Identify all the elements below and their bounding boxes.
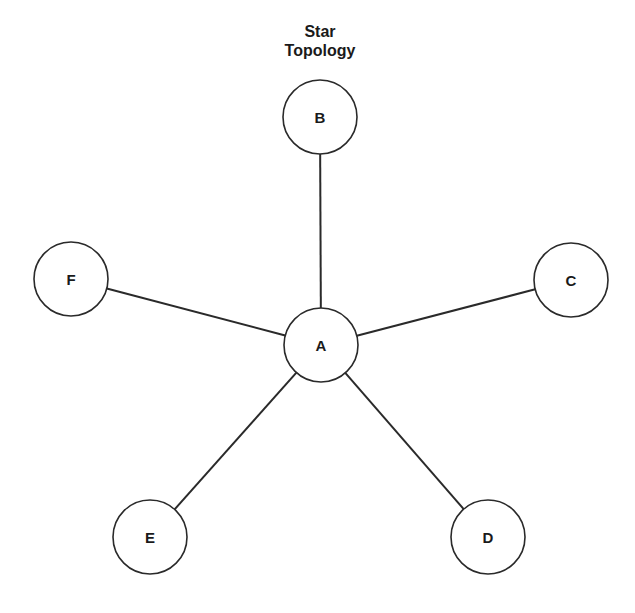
node-label: C xyxy=(566,272,577,289)
node-c: C xyxy=(534,243,608,317)
node-a: A xyxy=(284,308,358,382)
star-topology-diagram: ABCDEF xyxy=(0,0,635,613)
node-label: B xyxy=(315,109,326,126)
edge-a-d xyxy=(345,373,463,509)
node-d: D xyxy=(451,500,525,574)
node-e: E xyxy=(113,500,187,574)
nodes-layer: ABCDEF xyxy=(34,80,608,574)
node-b: B xyxy=(283,80,357,154)
edge-a-f xyxy=(107,288,285,335)
edge-a-b xyxy=(320,154,321,308)
node-label: D xyxy=(483,529,494,546)
node-label: E xyxy=(145,529,155,546)
node-label: F xyxy=(66,271,75,288)
node-label: A xyxy=(316,337,327,354)
node-f: F xyxy=(34,242,108,316)
edge-a-c xyxy=(357,289,535,335)
edge-a-e xyxy=(175,373,297,510)
